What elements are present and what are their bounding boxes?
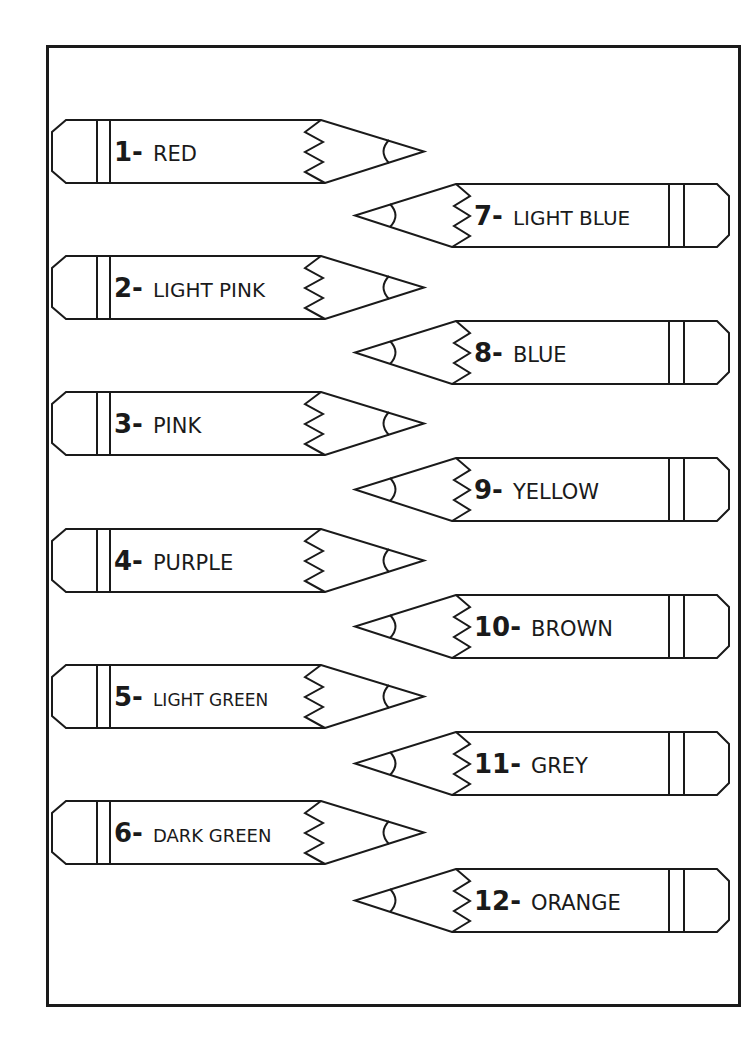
ferrule bbox=[669, 458, 684, 521]
eraser bbox=[684, 458, 729, 521]
ferrule bbox=[669, 869, 684, 932]
eraser bbox=[52, 256, 97, 319]
pencil-brown: 10-BROWN bbox=[355, 595, 729, 658]
pencil-color-name: LIGHT PINK bbox=[153, 278, 266, 302]
pencil-number: 6- bbox=[114, 818, 143, 848]
pencil-sheet: 1-RED2-LIGHT PINK3-PINK4-PURPLE5-LIGHT G… bbox=[0, 0, 752, 1048]
pencil-color-name: LIGHT BLUE bbox=[513, 206, 630, 230]
pencil-light-green: 5-LIGHT GREEN bbox=[52, 665, 424, 728]
pencil-blue: 8-BLUE bbox=[355, 321, 729, 384]
pencil-label: 3-PINK bbox=[114, 409, 202, 439]
pencil-number: 2- bbox=[114, 273, 143, 303]
pencil-number: 7- bbox=[474, 201, 503, 231]
pencil-label: 10-BROWN bbox=[474, 612, 613, 642]
pencil-color-name: BROWN bbox=[531, 617, 613, 641]
eraser bbox=[52, 665, 97, 728]
eraser bbox=[684, 184, 729, 247]
pencil-number: 10- bbox=[474, 612, 521, 642]
pencil-color-name: YELLOW bbox=[512, 480, 599, 504]
pencil-pink: 3-PINK bbox=[52, 392, 424, 455]
eraser bbox=[52, 392, 97, 455]
ferrule bbox=[669, 732, 684, 795]
pencil-light-pink: 2-LIGHT PINK bbox=[52, 256, 424, 319]
pencil-color-name: PURPLE bbox=[153, 551, 233, 575]
eraser bbox=[684, 321, 729, 384]
pencil-light-blue: 7-LIGHT BLUE bbox=[355, 184, 729, 247]
eraser bbox=[684, 595, 729, 658]
pencil-label: 11-GREY bbox=[474, 749, 588, 779]
pencil-color-name: BLUE bbox=[513, 343, 567, 367]
pencil-number: 1- bbox=[114, 137, 143, 167]
eraser bbox=[684, 732, 729, 795]
pencil-number: 4- bbox=[114, 546, 143, 576]
pencil-number: 8- bbox=[474, 338, 503, 368]
eraser bbox=[52, 801, 97, 864]
eraser bbox=[684, 869, 729, 932]
ferrule bbox=[669, 184, 684, 247]
pencil-orange: 12-ORANGE bbox=[355, 869, 729, 932]
pencil-number: 3- bbox=[114, 409, 143, 439]
ferrule bbox=[97, 529, 110, 592]
pencil-color-name: ORANGE bbox=[531, 891, 621, 915]
ferrule bbox=[669, 321, 684, 384]
pencil-number: 12- bbox=[474, 886, 521, 916]
pencil-number: 9- bbox=[474, 475, 503, 505]
ferrule bbox=[669, 595, 684, 658]
pencil-yellow: 9-YELLOW bbox=[355, 458, 729, 521]
ferrule bbox=[97, 801, 110, 864]
pencil-dark-green: 6-DARK GREEN bbox=[52, 801, 424, 864]
pencil-list: 1-RED2-LIGHT PINK3-PINK4-PURPLE5-LIGHT G… bbox=[52, 120, 729, 932]
pencil-color-name: PINK bbox=[153, 414, 203, 438]
eraser bbox=[52, 120, 97, 183]
pencil-color-name: DARK GREEN bbox=[153, 825, 272, 846]
pencil-label: 8-BLUE bbox=[474, 338, 567, 368]
pencil-label: 12-ORANGE bbox=[474, 886, 621, 916]
ferrule bbox=[97, 120, 110, 183]
pencil-label: 1-RED bbox=[114, 137, 197, 167]
pencil-number: 11- bbox=[474, 749, 521, 779]
pencil-label: 9-YELLOW bbox=[474, 475, 599, 505]
pencil-color-name: LIGHT GREEN bbox=[153, 690, 268, 710]
ferrule bbox=[97, 256, 110, 319]
eraser bbox=[52, 529, 97, 592]
pencil-number: 5- bbox=[114, 682, 143, 712]
pencil-label: 2-LIGHT PINK bbox=[114, 273, 266, 303]
ferrule bbox=[97, 392, 110, 455]
ferrule bbox=[97, 665, 110, 728]
pencil-grey: 11-GREY bbox=[355, 732, 729, 795]
pencil-color-name: RED bbox=[153, 142, 197, 166]
pencil-label: 7-LIGHT BLUE bbox=[474, 201, 630, 231]
pencil-label: 4-PURPLE bbox=[114, 546, 233, 576]
pencil-color-name: GREY bbox=[531, 754, 588, 778]
pencil-purple: 4-PURPLE bbox=[52, 529, 424, 592]
pencil-red: 1-RED bbox=[52, 120, 424, 183]
